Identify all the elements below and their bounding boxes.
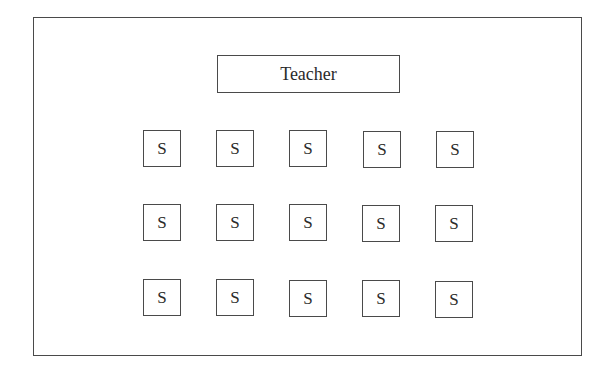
- student-label: S: [303, 213, 312, 233]
- student-label: S: [157, 213, 166, 233]
- student-label: S: [230, 213, 239, 233]
- student-seat-r3-c3: S: [289, 280, 327, 317]
- student-seat-r2-c4: S: [362, 205, 400, 242]
- student-label: S: [230, 288, 239, 308]
- student-label: S: [377, 140, 386, 160]
- student-label: S: [157, 288, 166, 308]
- student-seat-r2-c2: S: [216, 204, 254, 241]
- student-label: S: [376, 214, 385, 234]
- student-seat-r1-c3: S: [289, 130, 327, 167]
- student-seat-r3-c1: S: [143, 279, 181, 316]
- student-label: S: [303, 289, 312, 309]
- student-label: S: [449, 290, 458, 310]
- student-label: S: [230, 139, 239, 159]
- student-seat-r2-c3: S: [289, 204, 327, 241]
- student-seat-r3-c4: S: [362, 280, 400, 317]
- student-seat-r3-c2: S: [216, 279, 254, 316]
- student-seat-r1-c1: S: [143, 130, 181, 167]
- student-seat-r3-c5: S: [435, 281, 473, 318]
- teacher-label: Teacher: [280, 64, 337, 85]
- student-seat-r2-c5: S: [435, 205, 473, 242]
- student-seat-r1-c2: S: [216, 130, 254, 167]
- student-seat-r1-c4: S: [363, 131, 401, 168]
- student-label: S: [450, 140, 459, 160]
- student-seat-r2-c1: S: [143, 204, 181, 241]
- teacher-desk: Teacher: [217, 55, 400, 93]
- student-label: S: [303, 139, 312, 159]
- student-label: S: [376, 289, 385, 309]
- student-label: S: [449, 214, 458, 234]
- student-label: S: [157, 139, 166, 159]
- student-seat-r1-c5: S: [436, 131, 474, 168]
